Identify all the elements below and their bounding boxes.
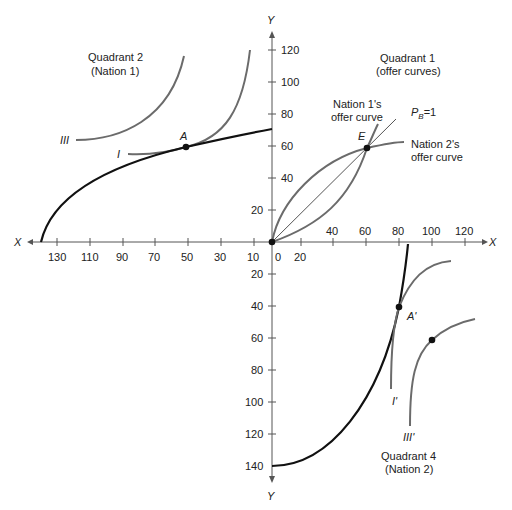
y-tick-down-20: 20 — [251, 268, 263, 280]
quadrant-2-subtitle: (Nation 1) — [91, 65, 139, 77]
y-tick-down-120: 120 — [245, 428, 263, 440]
x-tick-0: 0 — [275, 251, 281, 263]
y-tick-120: 120 — [281, 44, 299, 56]
nation-1-offer-label-line2: offer curve — [331, 111, 383, 123]
y-axis-label-top: Y — [267, 14, 275, 26]
x-tick-left-70: 70 — [148, 251, 160, 263]
x-tick-20: 20 — [294, 251, 306, 263]
point-A-prime — [396, 304, 403, 311]
quadrant-4-subtitle: (Nation 2) — [385, 463, 433, 475]
quadrant-2-title: Quadrant 2 — [88, 51, 143, 63]
indifference-curve-I — [128, 50, 250, 154]
x-tick-60: 60 — [359, 225, 371, 237]
origin-point — [269, 239, 276, 246]
y-tick-down-60: 60 — [251, 332, 263, 344]
y-tick-down-140: 140 — [245, 460, 263, 472]
y-tick-60: 60 — [281, 140, 293, 152]
trade-diagram: X X Y Y 0 20 40 60 80 100 120 130 — [0, 0, 512, 510]
nation-2-offer-label-line2: offer curve — [411, 151, 463, 163]
quadrant-1-title: Quadrant 1 — [380, 52, 435, 64]
y-tick-40: 40 — [281, 172, 293, 184]
x-tick-40: 40 — [326, 225, 338, 237]
y-axis-label-bottom: Y — [267, 490, 275, 502]
equilibrium-label: E — [358, 130, 366, 142]
x-tick-left-30: 30 — [214, 251, 226, 263]
x-tick-left-90: 90 — [116, 251, 128, 263]
equilibrium-point-E — [364, 145, 371, 152]
quadrant-4: Quadrant 4 (Nation 2) I' III' A' — [272, 244, 475, 475]
y-tick-down-40: 40 — [251, 300, 263, 312]
x-axis-arrow-left — [27, 239, 33, 245]
y-axis-arrow-up — [269, 31, 275, 38]
indifference-label-III: III — [60, 134, 69, 146]
nation-1-offer-label-line1: Nation 1's — [333, 98, 382, 110]
quadrant-1-subtitle: (offer curves) — [376, 65, 441, 77]
x-tick-left-10: 10 — [247, 251, 259, 263]
axes: X X Y Y 0 20 40 60 80 100 120 130 — [13, 14, 497, 502]
x-axis-arrow-right — [482, 239, 488, 245]
indifference-label-III-prime: III' — [403, 431, 415, 443]
y-tick-down-80: 80 — [251, 364, 263, 376]
indifference-curve-I-prime — [391, 261, 451, 389]
x-tick-left-110: 110 — [81, 251, 99, 263]
quadrant-2: Quadrant 2 (Nation 1) III I A — [41, 50, 272, 242]
indifference-curve-III-prime — [410, 319, 475, 426]
terms-of-trade-label: PB=1 — [411, 106, 436, 121]
x-tick-100: 100 — [422, 225, 440, 237]
x-tick-left-130: 130 — [48, 251, 66, 263]
y-tick-20: 20 — [251, 204, 263, 216]
y-tick-100: 100 — [281, 76, 299, 88]
x-axis-label-left: X — [13, 236, 22, 248]
nation-2-offer-label-line1: Nation 2's — [411, 138, 460, 150]
point-A — [183, 144, 190, 151]
point-A-label: A — [179, 130, 187, 142]
indifference-label-I: I — [117, 148, 120, 160]
point-A-prime-label: A' — [406, 310, 417, 322]
y-tick-80: 80 — [281, 108, 293, 120]
x-tick-80: 80 — [392, 225, 404, 237]
production-frontier-nation-1 — [41, 129, 272, 242]
y-tick-down-100: 100 — [245, 396, 263, 408]
x-tick-120: 120 — [455, 225, 473, 237]
point-on-III-prime — [429, 337, 436, 344]
quadrant-4-title: Quadrant 4 — [381, 450, 436, 462]
x-tick-left-50: 50 — [181, 251, 193, 263]
production-frontier-nation-2 — [272, 244, 408, 466]
y-axis-arrow-down — [269, 476, 275, 483]
indifference-label-I-prime: I' — [392, 395, 398, 407]
x-axis-label-right: X — [488, 236, 497, 248]
